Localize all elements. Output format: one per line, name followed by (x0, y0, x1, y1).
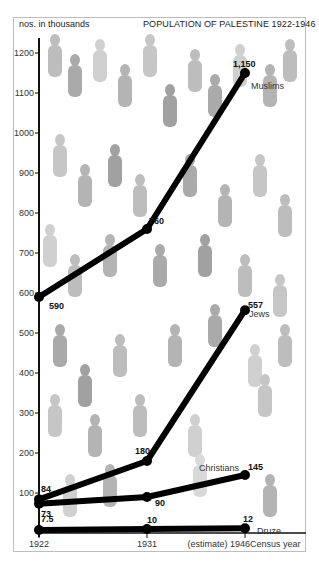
data-point (240, 523, 250, 533)
x-axis-title: Census year (250, 539, 301, 549)
data-point (142, 456, 152, 466)
x-tick-label: (estimate) 1946 (187, 539, 250, 549)
y-tick-label: 1200 (14, 48, 34, 58)
y-tick-label: 400 (19, 368, 34, 378)
data-point (240, 68, 250, 78)
data-label: 590 (49, 301, 64, 311)
y-tick-label: 900 (19, 168, 34, 178)
y-tick-label: 800 (19, 208, 34, 218)
series-name-label: Muslims (251, 81, 284, 91)
data-point (34, 499, 44, 509)
y-tick-label: 1000 (14, 128, 34, 138)
series-name-label: Druze (257, 526, 281, 536)
y-tick-label: 100 (19, 488, 34, 498)
data-label: 1,150 (233, 59, 256, 69)
series-jews: 84180557Jews (34, 300, 270, 504)
data-point (34, 525, 44, 535)
y-tick-label: 300 (19, 408, 34, 418)
data-label: 12 (243, 514, 253, 524)
data-label: 7.5 (41, 514, 54, 524)
line-chart: 1002003004005006007008009001000110012001… (0, 0, 319, 565)
data-point (142, 524, 152, 534)
y-tick-label: 500 (19, 328, 34, 338)
y-tick-label: 700 (19, 248, 34, 258)
data-label: 84 (41, 484, 51, 494)
y-tick-label: 1100 (15, 88, 34, 98)
y-tick-label: 600 (19, 288, 34, 298)
crowd-illustration (43, 34, 297, 517)
x-tick-label: 1931 (137, 539, 157, 549)
data-label: 90 (155, 498, 165, 508)
series-name-label: Christians (199, 463, 240, 473)
data-label: 145 (248, 462, 263, 472)
data-label: 180 (135, 446, 150, 456)
x-tick-label: 1922 (29, 539, 49, 549)
data-point (34, 292, 44, 302)
y-tick-label: 200 (19, 448, 34, 458)
data-point (142, 492, 152, 502)
data-label: 760 (149, 216, 164, 226)
series-name-label: Jews (249, 309, 270, 319)
data-label: 10 (147, 515, 157, 525)
